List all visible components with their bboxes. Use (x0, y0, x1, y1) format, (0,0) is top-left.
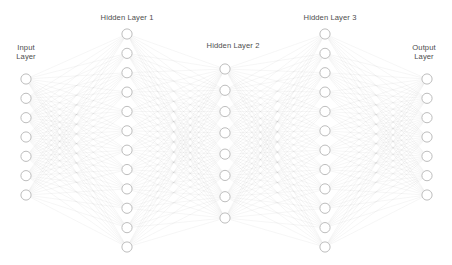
edge (225, 154, 325, 169)
edge (26, 195, 127, 208)
network-canvas (0, 0, 452, 265)
edge (127, 34, 225, 69)
edge (225, 53, 325, 154)
edge (127, 92, 225, 111)
edge (225, 90, 325, 169)
edge (127, 133, 225, 170)
neuron-node-input-layer-1 (21, 74, 31, 84)
neuron-node-hidden-layer-3-6 (320, 126, 330, 136)
edge (127, 53, 225, 196)
edge (225, 92, 325, 133)
edge (225, 34, 325, 133)
edge (26, 34, 127, 137)
edge (127, 197, 225, 209)
edge (26, 195, 127, 247)
edge (225, 69, 325, 170)
neuron-node-hidden-layer-2-7 (220, 192, 230, 202)
neuron-node-hidden-layer-3-10 (320, 203, 330, 213)
edge (127, 73, 225, 112)
edge (127, 34, 225, 154)
edge (225, 69, 325, 150)
neuron-node-hidden-layer-3-11 (320, 223, 330, 233)
edge (127, 154, 225, 247)
edge (325, 53, 427, 79)
edge (127, 92, 225, 133)
edge (225, 34, 325, 197)
edge (325, 34, 427, 79)
neuron-node-hidden-layer-3-2 (320, 48, 330, 58)
edge (225, 73, 325, 218)
neuron-node-output-layer-3 (422, 113, 432, 123)
edge (127, 218, 225, 228)
edge (225, 197, 325, 228)
edge (127, 69, 225, 170)
neuron-node-input-layer-5 (21, 151, 31, 161)
edge (325, 98, 427, 247)
edge (26, 34, 127, 118)
edge (225, 53, 325, 196)
edge (127, 73, 225, 154)
neuron-node-output-layer-6 (422, 171, 432, 181)
edge (26, 34, 127, 156)
neuron-node-hidden-layer-2-5 (220, 149, 230, 159)
neuron-node-hidden-layer-2-6 (220, 170, 230, 180)
edge (225, 133, 325, 247)
edge (225, 92, 325, 111)
edge (325, 79, 427, 150)
edge (225, 197, 325, 247)
neuron-node-output-layer-1 (422, 74, 432, 84)
neuron-node-output-layer-4 (422, 132, 432, 142)
edge (225, 69, 325, 92)
edge (127, 197, 225, 247)
neuron-node-hidden-layer-1-2 (122, 48, 132, 58)
edge (225, 90, 325, 131)
edge (127, 53, 225, 154)
edge (127, 69, 225, 73)
edge (127, 90, 225, 131)
neuron-node-hidden-layer-1-8 (122, 164, 132, 174)
edge (225, 73, 325, 154)
edge (225, 34, 325, 154)
edge (26, 34, 127, 98)
neuron-node-hidden-layer-1-12 (122, 242, 132, 252)
neuron-node-output-layer-7 (422, 190, 432, 200)
neuron-node-input-layer-4 (21, 132, 31, 142)
neuron-node-hidden-layer-1-1 (122, 29, 132, 39)
edge (26, 170, 127, 195)
edge (225, 133, 325, 170)
edge (26, 73, 127, 195)
edge (225, 69, 325, 247)
edge (127, 197, 225, 228)
neuron-node-hidden-layer-1-6 (122, 126, 132, 136)
edge (325, 195, 427, 247)
edge (127, 90, 225, 111)
neuron-node-hidden-layer-3-12 (320, 242, 330, 252)
neuron-node-hidden-layer-2-4 (220, 128, 230, 138)
edge (127, 133, 225, 247)
neuron-node-hidden-layer-1-5 (122, 106, 132, 116)
edge (127, 218, 225, 247)
neuron-node-output-layer-2 (422, 93, 432, 103)
edge (127, 73, 225, 218)
edge (26, 34, 127, 195)
edge (225, 34, 325, 69)
edge (225, 111, 325, 218)
neuron-node-hidden-layer-3-7 (320, 145, 330, 155)
edge (127, 69, 225, 92)
neuron-node-hidden-layer-2-1 (220, 64, 230, 74)
edge (127, 69, 225, 228)
neuron-node-hidden-layer-3-5 (320, 106, 330, 116)
neuron-node-hidden-layer-3-3 (320, 68, 330, 78)
neuron-node-hidden-layer-2-2 (220, 85, 230, 95)
edge (325, 79, 427, 131)
edge (225, 69, 325, 208)
edge (325, 73, 427, 79)
neuron-node-hidden-layer-2-3 (220, 106, 230, 116)
edge (127, 69, 225, 150)
edge (325, 79, 427, 111)
edge (127, 154, 225, 169)
edge (127, 90, 225, 169)
edge (225, 69, 325, 73)
neuron-node-hidden-layer-3-4 (320, 87, 330, 97)
edge (225, 175, 325, 247)
